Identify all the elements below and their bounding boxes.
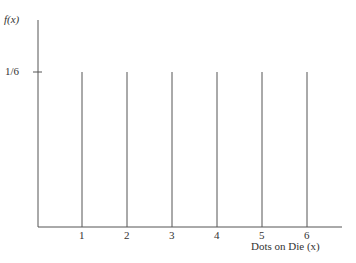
x-tick-label: 1 bbox=[79, 229, 85, 241]
y-tick-label: 1/6 bbox=[5, 65, 19, 77]
x-tick-label: 3 bbox=[169, 229, 175, 241]
x-tick-label: 2 bbox=[124, 229, 130, 241]
x-axis-label: Dots on Die (x) bbox=[251, 240, 320, 252]
pmf-chart bbox=[0, 0, 356, 263]
x-tick-label: 4 bbox=[214, 229, 220, 241]
pmf-lines bbox=[82, 72, 307, 227]
y-axis-label: f(x) bbox=[4, 13, 19, 25]
